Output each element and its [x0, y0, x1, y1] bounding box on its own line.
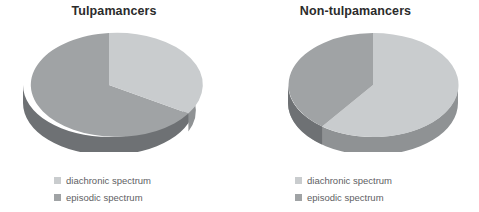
legend-item-diachronic-secondary: diachronic spectrum: [295, 172, 392, 189]
pie-chart-non-tulpamancers: [240, 24, 479, 152]
chart-panel-tulpamancers: Tulpamancers: [0, 0, 240, 212]
legend-item-diachronic: diachronic spectrum: [54, 172, 151, 189]
legend-swatch-episodic-icon: [54, 194, 61, 201]
legend-label-episodic: episodic spectrum: [66, 192, 143, 204]
legend-item-episodic-secondary: episodic spectrum: [295, 189, 392, 206]
legend-label-diachronic: diachronic spectrum: [66, 175, 151, 187]
legend-swatch-episodic-icon-secondary: [295, 194, 302, 201]
legend-label-diachronic-secondary: diachronic spectrum: [307, 175, 392, 187]
chart-panel-non-tulpamancers: Non-tulpamancers: [240, 0, 479, 212]
legend-swatch-diachronic-icon-secondary: [295, 177, 302, 184]
page-title: Tulpamancers: [0, 3, 234, 19]
pie-chart-tulpamancers: [0, 24, 240, 152]
pie-svg-tulpamancers: [0, 24, 240, 152]
legend-item-episodic: episodic spectrum: [54, 189, 151, 206]
page-title-secondary: Non-tulpamancers: [236, 3, 475, 19]
legend-swatch-diachronic-icon: [54, 177, 61, 184]
legend-non-tulpamancers: diachronic spectrum episodic spectrum: [295, 172, 392, 206]
legend-label-episodic-secondary: episodic spectrum: [307, 192, 384, 204]
pie-chart-figure: Tulpamancers: [0, 0, 479, 212]
legend-tulpamancers: diachronic spectrum episodic spectrum: [54, 172, 151, 206]
pie-svg-non-tulpamancers: [240, 24, 479, 152]
